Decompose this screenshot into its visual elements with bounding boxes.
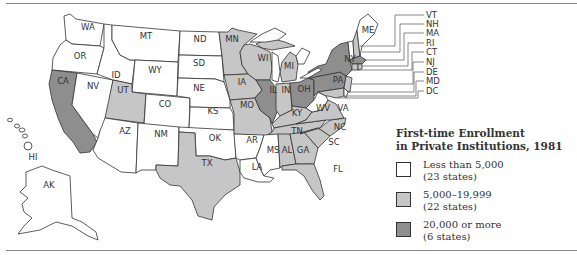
label-NM: NM (154, 129, 168, 139)
label-IA: IA (238, 77, 247, 87)
legend-item-mid: 5,000–19,999 (22 states) (396, 189, 576, 213)
legend-range-high: 20,000 or more (423, 219, 501, 231)
lake-huron (296, 48, 310, 64)
callout-MA: MA (426, 28, 439, 38)
legend-title-line2: in Private Institutions, 1981 (396, 140, 576, 153)
label-IN: IN (282, 85, 291, 95)
label-VA: VA (337, 103, 348, 113)
state-ME (357, 14, 378, 56)
label-UT: UT (117, 85, 129, 95)
swatch-low (396, 162, 411, 177)
label-ND: ND (194, 34, 207, 44)
label-KS: KS (208, 106, 219, 116)
label-FL: FL (333, 164, 343, 174)
label-OK: OK (209, 133, 222, 143)
label-OH: OH (297, 84, 310, 94)
legend-count-low: (23 states) (423, 171, 504, 183)
label-MS: MS (267, 145, 280, 155)
state-FL (282, 164, 324, 200)
label-TN: TN (290, 126, 303, 136)
label-AZ: AZ (119, 126, 131, 136)
label-MI: MI (284, 61, 294, 71)
label-SC: SC (328, 137, 339, 147)
label-GA: GA (297, 145, 310, 155)
label-CA: CA (57, 76, 69, 86)
label-OR: OR (74, 51, 87, 61)
legend-item-low: Less than 5,000 (23 states) (396, 159, 576, 183)
legend-range-mid: 5,000–19,999 (423, 189, 492, 201)
label-MT: MT (140, 31, 153, 41)
label-SD: SD (193, 58, 205, 68)
state-RI (358, 64, 362, 70)
callout-NJ: NJ (426, 57, 435, 67)
label-WA: WA (81, 22, 95, 32)
label-WY: WY (148, 65, 162, 75)
swatch-high (396, 222, 411, 237)
callout-labels: VT NH MA RI CT NJ DE MD DC (426, 10, 440, 96)
label-NV: NV (87, 81, 99, 91)
label-MO: MO (240, 100, 254, 110)
label-LA: LA (252, 162, 263, 172)
legend-range-low: Less than 5,000 (423, 159, 504, 171)
label-AL: AL (282, 145, 293, 155)
label-ME: ME (362, 25, 375, 35)
label-IL: IL (269, 85, 277, 95)
label-TX: TX (200, 158, 212, 168)
label-PA: PA (333, 75, 344, 85)
label-MN: MN (225, 34, 239, 44)
callout-MD: MD (426, 76, 440, 86)
label-CO: CO (159, 99, 172, 109)
label-NE: NE (193, 83, 205, 93)
label-HI: HI (29, 152, 38, 162)
label-AK: AK (43, 180, 55, 190)
callout-DC: DC (426, 86, 439, 96)
state-HI (8, 118, 33, 150)
label-NC: NC (334, 122, 346, 132)
label-NY: NY (344, 54, 356, 64)
label-WV: WV (316, 103, 330, 113)
legend-count-high: (6 states) (423, 231, 501, 243)
label-KY: KY (292, 108, 303, 118)
legend-item-high: 20,000 or more (6 states) (396, 219, 576, 243)
state-CT (352, 64, 358, 70)
label-AR: AR (246, 135, 258, 145)
swatch-mid (396, 192, 411, 207)
legend-count-mid: (22 states) (423, 201, 492, 213)
map-legend: First-time Enrollment in Private Institu… (396, 127, 576, 243)
label-ID: ID (111, 70, 121, 80)
state-AK (18, 166, 98, 240)
callout-CT: CT (426, 47, 438, 57)
legend-title-line1: First-time Enrollment (396, 127, 576, 140)
label-WI: WI (258, 53, 269, 63)
lake-michigan (272, 52, 280, 82)
